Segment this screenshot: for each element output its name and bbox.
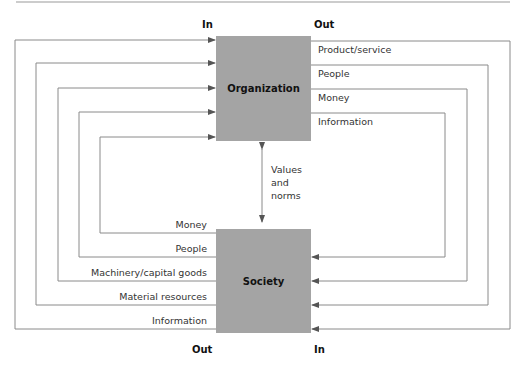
header-top-in: In (202, 19, 213, 30)
society-node: Society (216, 229, 311, 333)
society-output-people: People (175, 243, 207, 254)
organization-label: Organization (227, 83, 300, 94)
org-output-people: People (318, 68, 350, 79)
header-top-out: Out (314, 19, 334, 30)
society-output-material-resources: Material resources (119, 291, 207, 302)
header-bottom-out: Out (192, 344, 212, 355)
header-bottom-in: In (314, 344, 325, 355)
society-label: Society (243, 276, 285, 287)
society-output-money: Money (176, 219, 208, 230)
org-output-product-service: Product/service (318, 44, 391, 55)
values-norms-label: Values and norms (271, 163, 302, 202)
society-output-information: Information (152, 315, 207, 326)
org-output-money: Money (318, 92, 350, 103)
org-output-information: Information (318, 116, 373, 127)
society-output-machinery: Machinery/capital goods (91, 267, 207, 278)
organization-node: Organization (216, 36, 311, 141)
